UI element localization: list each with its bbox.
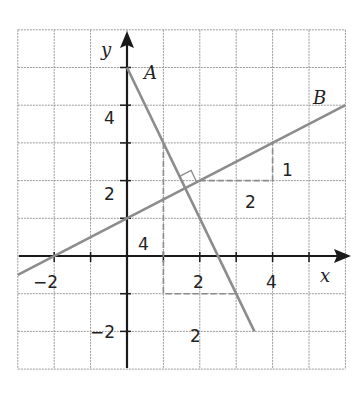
rise-label-a: 4 <box>138 234 149 254</box>
tick-label-x-4: 4 <box>266 272 277 292</box>
coordinate-diagram: y x A B −2 2 4 4 2 −2 1 2 4 2 <box>0 0 360 393</box>
tick-label-y-2: 2 <box>104 184 115 204</box>
run-label-b: 2 <box>245 192 256 212</box>
tick-label-x-2: 2 <box>193 272 204 292</box>
line-b <box>18 105 346 275</box>
lines <box>18 68 346 332</box>
tick-label-y-4: 4 <box>104 108 115 128</box>
graph-svg: y x A B −2 2 4 4 2 −2 1 2 4 2 <box>0 0 360 393</box>
tick-label-y-neg2: −2 <box>90 322 115 342</box>
rise-label-b: 1 <box>282 160 293 180</box>
tick-label-x-neg2: −2 <box>33 272 58 292</box>
line-a <box>127 68 254 332</box>
line-a-label: A <box>142 62 157 83</box>
line-b-label: B <box>312 87 326 108</box>
x-axis-label: x <box>320 265 330 286</box>
run-label-a: 2 <box>190 326 201 346</box>
y-axis-label: y <box>100 39 112 60</box>
grid <box>18 30 346 369</box>
axes <box>19 31 351 368</box>
